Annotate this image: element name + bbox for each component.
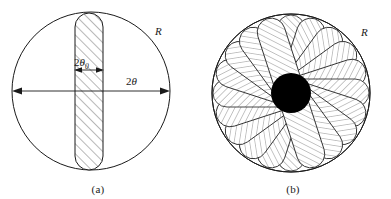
diameter-label-symbol: θ bbox=[132, 75, 138, 87]
slit-width-label-subscript: 0 bbox=[85, 62, 89, 71]
stadium-hatch-fill bbox=[70, 10, 110, 175]
radius-label-a: R bbox=[154, 25, 162, 37]
panel-a-caption: (a) bbox=[0, 183, 196, 195]
panel-a-drawing: 2θ0 2θ R bbox=[0, 0, 196, 199]
figure-root: 2θ0 2θ R (a) bbox=[0, 0, 391, 199]
diameter-label: 2θ bbox=[126, 75, 138, 87]
panel-a: 2θ0 2θ R (a) bbox=[0, 0, 196, 199]
panel-b-drawing: R bbox=[195, 0, 391, 199]
core-overlap-disc bbox=[271, 73, 311, 113]
panel-b: R (b) bbox=[195, 0, 391, 199]
radius-label-b: R bbox=[360, 26, 368, 38]
panel-b-caption: (b) bbox=[195, 183, 391, 195]
